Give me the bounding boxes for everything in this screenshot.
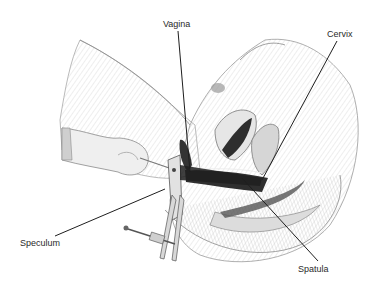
label-speculum: Speculum [20,238,60,248]
label-vagina: Vagina [163,19,190,29]
label-spatula: Spatula [298,264,329,274]
diagram-canvas: Vagina Cervix Speculum Spatula [0,0,376,291]
leader-line-speculum [55,189,165,236]
label-cervix: Cervix [327,29,353,39]
